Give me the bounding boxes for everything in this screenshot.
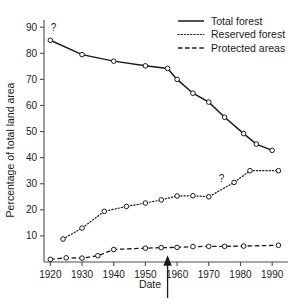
data-point	[143, 246, 148, 251]
series-protected-areas	[48, 243, 281, 262]
chart-figure: 102030405060708090 192019301940195019601…	[0, 0, 297, 304]
chart-canvas: 102030405060708090 192019301940195019601…	[0, 0, 297, 304]
series-reserved-forest	[61, 168, 281, 241]
data-point	[241, 244, 246, 249]
data-point	[191, 91, 196, 96]
data-point	[206, 194, 211, 199]
legend-label: Protected areas	[211, 42, 285, 54]
x-tick-label: 1920	[39, 269, 62, 280]
x-tick-label: 1930	[71, 269, 94, 280]
data-point	[124, 204, 129, 209]
y-tick-label: 30	[26, 178, 38, 189]
y-tick-label: 70	[26, 74, 38, 85]
series-line	[63, 171, 278, 239]
data-point	[241, 131, 246, 136]
data-point	[80, 256, 85, 261]
data-point	[111, 247, 116, 252]
x-tick-label: 1980	[229, 269, 252, 280]
data-point	[232, 180, 237, 185]
data-point	[270, 148, 275, 153]
x-tick-label: 1940	[103, 269, 126, 280]
data-point	[61, 237, 66, 242]
data-point	[175, 194, 180, 199]
x-tick-label: 1970	[198, 269, 221, 280]
legend-label: Reserved forest	[211, 28, 285, 40]
y-tick-label: 60	[26, 100, 38, 111]
legend-item-reserved-forest: Reserved forest	[178, 28, 285, 40]
y-axis-title: Percentage of total land area	[4, 82, 16, 217]
data-point	[165, 66, 170, 71]
series-total-forest	[48, 38, 274, 153]
x-axis-title: Date	[139, 278, 161, 290]
data-point	[175, 245, 180, 250]
x-tick-label: 1960	[166, 269, 189, 280]
data-point	[175, 77, 180, 82]
y-tick-label: 80	[26, 48, 38, 59]
legend-item-protected-areas: Protected areas	[178, 42, 285, 54]
legend-item-total-forest: Total forest	[178, 15, 262, 27]
data-point	[276, 243, 281, 248]
data-point	[206, 244, 211, 249]
legend-label: Total forest	[211, 15, 262, 27]
data-point	[276, 168, 281, 173]
data-point	[80, 226, 85, 231]
question-mark-annotation: ?	[219, 173, 225, 184]
y-axis-ticks: 102030405060708090	[26, 22, 44, 242]
y-tick-label: 40	[26, 152, 38, 163]
annotations-group: ??	[51, 22, 225, 184]
y-tick-label: 10	[26, 230, 38, 241]
chart-legend: Total forestReserved forestProtected are…	[178, 15, 285, 54]
data-point	[222, 244, 227, 249]
data-point	[80, 52, 85, 57]
data-point	[254, 142, 259, 147]
data-point	[222, 115, 227, 120]
data-point	[248, 168, 253, 173]
axes: 102030405060708090 192019301940195019601…	[26, 20, 288, 280]
data-point	[143, 201, 148, 206]
x-axis-ticks: 19201930194019501960197019801990	[39, 262, 284, 280]
data-point	[96, 253, 101, 258]
y-tick-label: 50	[26, 126, 38, 137]
data-point	[48, 38, 53, 43]
y-tick-label: 90	[26, 22, 38, 33]
data-point	[206, 100, 211, 105]
x-tick-label: 1990	[261, 269, 284, 280]
data-point	[111, 59, 116, 64]
data-point	[48, 257, 53, 262]
data-point	[191, 193, 196, 198]
data-point	[159, 245, 164, 250]
data-point	[143, 64, 148, 69]
question-mark-annotation: ?	[51, 22, 57, 33]
data-point	[64, 256, 69, 261]
data-point	[191, 244, 196, 249]
y-tick-label: 20	[26, 204, 38, 215]
date-arrow-head	[164, 257, 170, 265]
data-point	[159, 198, 164, 203]
data-series-group	[48, 38, 281, 262]
data-point	[102, 209, 107, 214]
